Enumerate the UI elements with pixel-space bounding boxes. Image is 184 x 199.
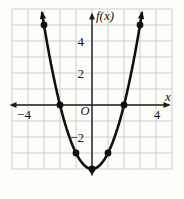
parabola-graph-figure: f(x)xO42−2−44 [0,0,184,199]
curve-point-dot [137,22,144,29]
curve-point-dot [89,166,96,173]
y-tick-label: 2 [78,66,85,81]
y-axis-label: f(x) [96,8,114,23]
curve-point-dot [121,102,128,109]
y-tick-label: 4 [78,34,85,49]
curve-point-dot [73,150,80,157]
curve-point-dot [41,22,48,29]
curve-point-dot [105,150,112,157]
x-axis-label: x [164,89,171,104]
graph-canvas: f(x)xO42−2−44 [0,0,184,199]
x-tick-label: −4 [17,107,31,122]
curve-point-dot [57,102,64,109]
y-tick-label: −2 [70,130,84,145]
x-tick-label: 4 [154,107,161,122]
origin-label: O [80,104,89,118]
